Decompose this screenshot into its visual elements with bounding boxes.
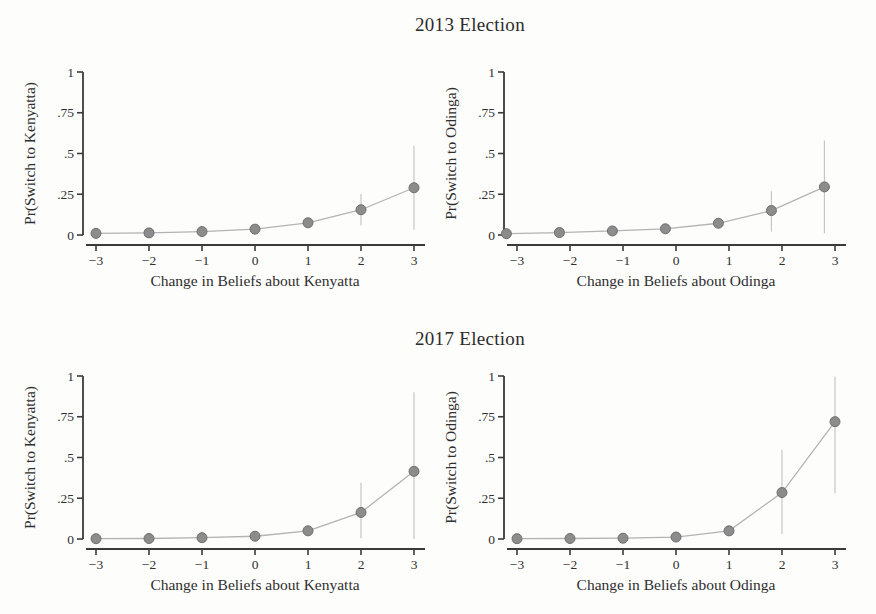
x-tick-label: 0	[673, 253, 680, 268]
data-point	[618, 533, 628, 543]
data-point	[819, 182, 829, 192]
x-tick-label: −1	[616, 557, 630, 572]
data-point	[303, 526, 313, 536]
data-point	[197, 533, 207, 543]
x-tick-label: 1	[726, 557, 733, 572]
data-point	[91, 228, 101, 238]
x-tick-label: 2	[779, 557, 786, 572]
series-line	[96, 471, 414, 538]
y-tick-label: 1	[67, 65, 74, 80]
x-tick-label: 0	[252, 557, 259, 572]
y-axis-title: Pr(Switch to Odinga)	[442, 87, 460, 220]
data-point	[766, 206, 776, 216]
x-tick-label: 3	[832, 557, 839, 572]
x-tick-label: 2	[779, 253, 786, 268]
x-tick-label: 3	[411, 253, 418, 268]
x-tick-label: −3	[89, 557, 104, 572]
data-point	[250, 531, 260, 541]
y-tick-label: 1	[488, 369, 495, 384]
panel-title-2013-election: 2013 Election	[64, 14, 876, 36]
x-axis-title: Change in Beliefs about Odinga	[577, 272, 776, 289]
x-tick-label: 0	[252, 253, 259, 268]
y-axis-title: Pr(Switch to Kenyatta)	[21, 82, 39, 225]
x-axis-title: Change in Beliefs about Kenyatta	[150, 576, 359, 593]
y-tick-label: .5	[64, 450, 74, 465]
x-tick-label: −2	[142, 253, 156, 268]
data-point	[409, 466, 419, 476]
x-tick-label: 1	[305, 557, 312, 572]
x-tick-label: −2	[142, 557, 156, 572]
data-point	[303, 218, 313, 228]
data-point	[91, 534, 101, 544]
data-point	[409, 183, 419, 193]
data-point	[607, 226, 617, 236]
y-tick-label: 0	[488, 228, 495, 243]
x-tick-label: −1	[616, 253, 630, 268]
y-tick-label: 1	[488, 65, 495, 80]
y-axis-title: Pr(Switch to Kenyatta)	[21, 386, 39, 529]
chart-2017-switch-to-odinga: 0.25.5.751−3−2−10123Change in Beliefs ab…	[440, 364, 860, 604]
data-point	[660, 224, 670, 234]
data-point	[830, 417, 840, 427]
x-tick-label: 3	[411, 557, 418, 572]
y-tick-label: 0	[488, 532, 495, 547]
x-tick-label: −3	[510, 557, 525, 572]
x-tick-label: −1	[195, 557, 209, 572]
x-tick-label: −3	[510, 253, 525, 268]
y-tick-label: .25	[57, 187, 74, 202]
data-point	[356, 507, 366, 517]
data-point	[671, 532, 681, 542]
panel-title-2017-election: 2017 Election	[64, 328, 876, 350]
data-point	[356, 205, 366, 215]
x-tick-label: −3	[89, 253, 104, 268]
x-tick-label: 2	[358, 253, 365, 268]
y-tick-label: .25	[57, 491, 74, 506]
chart-2013-switch-to-kenyatta: 0.25.5.751−3−2−10123Change in Beliefs ab…	[19, 60, 439, 300]
data-point	[713, 218, 723, 228]
y-tick-label: .75	[57, 409, 74, 424]
y-tick-label: .5	[64, 146, 74, 161]
x-axis-title: Change in Beliefs about Kenyatta	[150, 272, 359, 289]
data-point	[554, 228, 564, 238]
y-tick-label: .75	[57, 105, 74, 120]
x-tick-label: −2	[563, 253, 577, 268]
data-point	[512, 534, 522, 544]
data-point	[565, 534, 575, 544]
data-point	[724, 526, 734, 536]
x-tick-label: −2	[563, 557, 577, 572]
y-tick-label: 0	[67, 532, 74, 547]
series-line	[517, 422, 835, 539]
data-point	[250, 224, 260, 234]
chart-2017-switch-to-kenyatta: 0.25.5.751−3−2−10123Change in Beliefs ab…	[19, 364, 439, 604]
data-point	[197, 227, 207, 237]
x-tick-label: 0	[673, 557, 680, 572]
y-tick-label: .75	[478, 105, 495, 120]
x-tick-label: −1	[195, 253, 209, 268]
y-tick-label: 1	[67, 369, 74, 384]
y-tick-label: .25	[478, 491, 495, 506]
x-tick-label: 1	[305, 253, 312, 268]
data-point	[777, 488, 787, 498]
y-axis-title: Pr(Switch to Odinga)	[442, 391, 460, 524]
x-tick-label: 1	[726, 253, 733, 268]
data-point	[144, 228, 154, 238]
chart-2013-switch-to-odinga: 0.25.5.751−3−2−10123Change in Beliefs ab…	[440, 60, 860, 300]
y-tick-label: .25	[478, 187, 495, 202]
y-tick-label: .75	[478, 409, 495, 424]
data-point	[144, 534, 154, 544]
election-switching-figure: 2013 Election 0.25.5.751−3−2−10123Change…	[0, 0, 876, 614]
y-tick-label: 0	[67, 228, 74, 243]
x-tick-label: 2	[358, 557, 365, 572]
data-point	[501, 229, 511, 239]
x-tick-label: 3	[832, 253, 839, 268]
y-tick-label: .5	[485, 450, 495, 465]
x-axis-title: Change in Beliefs about Odinga	[577, 576, 776, 593]
y-tick-label: .5	[485, 146, 495, 161]
